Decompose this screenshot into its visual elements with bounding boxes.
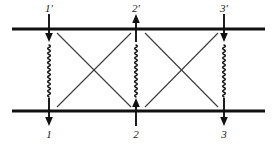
arrow-head-a3-down [220,117,228,126]
arrow-head-a1p-down [45,33,53,42]
arrow-head-a2-up [132,98,140,107]
arrow-head-a1-down [45,117,53,126]
upper-node-label-t1: 1' [45,3,53,14]
squiggle-w3 [223,45,226,97]
lower-node-label-b2: 2 [133,129,139,140]
lower-node-label-b1: 1 [46,129,52,140]
squiggle-w2 [135,45,138,97]
squiggle-w1 [48,45,51,97]
arrow-head-a3p-down [220,33,228,42]
diagram-canvas [0,0,279,146]
upper-node-label-t3: 3' [220,3,228,14]
upper-node-label-t2: 2' [132,3,140,14]
lower-node-label-b3: 3 [221,129,227,140]
arrow-head-a2p-up [132,14,140,23]
transition-diagram-figure: 1'2'3'123 [0,0,279,146]
